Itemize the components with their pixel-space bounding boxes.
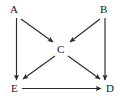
- node-label-d: D: [106, 83, 114, 94]
- node-label-c: C: [57, 44, 64, 55]
- graph-diagram: A B C D E: [0, 0, 121, 100]
- edge-c-to-e: [23, 56, 55, 79]
- node-label-b: B: [100, 4, 107, 15]
- edge-a-to-c: [21, 19, 53, 42]
- node-label-e: E: [11, 83, 18, 94]
- edge-b-to-c: [70, 19, 100, 42]
- node-label-a: A: [10, 4, 18, 15]
- edge-c-to-d: [68, 56, 100, 79]
